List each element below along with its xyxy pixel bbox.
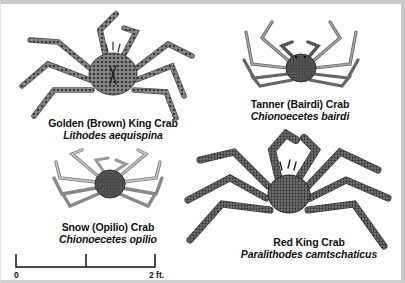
scientific-name: Chionoecetes opilio — [59, 233, 157, 245]
red-king-crab-label: Red King Crab Paralithodes camtschaticus — [241, 236, 377, 260]
spiny-king-crab-illustration — [22, 14, 192, 118]
scientific-name: Paralithodes camtschaticus — [241, 248, 377, 260]
common-name: Snow (Opilio) Crab — [59, 221, 157, 233]
scale-start-label: 0 — [14, 270, 19, 280]
common-name: Red King Crab — [241, 236, 377, 248]
scale-end-label: 2 ft. — [149, 270, 164, 280]
scale-bar — [16, 254, 155, 267]
tanner-crab-label: Tanner (Bairdi) Crab Chionoecetes bairdi — [251, 98, 350, 122]
red-king-crab-illustration — [188, 134, 388, 246]
golden-king-crab-label: Golden (Brown) King Crab Lithodes aequis… — [48, 117, 177, 141]
snow-crab-illustration — [54, 150, 162, 206]
scientific-name: Chionoecetes bairdi — [251, 110, 350, 122]
common-name: Golden (Brown) King Crab — [48, 117, 177, 129]
snow-crab-label: Snow (Opilio) Crab Chionoecetes opilio — [59, 221, 157, 245]
common-name: Tanner (Bairdi) Crab — [251, 98, 350, 110]
tanner-crab-illustration — [244, 22, 358, 86]
scientific-name: Lithodes aequispina — [48, 129, 177, 141]
